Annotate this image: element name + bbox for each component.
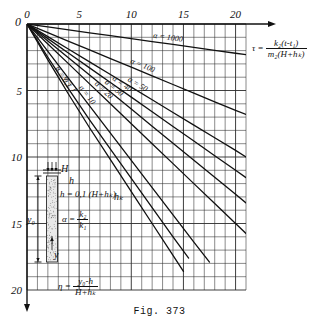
- soil-stipple: [52, 184, 53, 185]
- soil-stipple: [53, 207, 54, 208]
- soil-stipple: [48, 207, 49, 208]
- soil-stipple: [52, 250, 53, 251]
- soil-stipple: [50, 205, 51, 206]
- soil-stipple: [51, 190, 52, 191]
- soil-stipple: [49, 186, 50, 187]
- soil-stipple: [48, 193, 49, 194]
- label-h: h: [69, 175, 74, 186]
- soil-stipple: [51, 255, 52, 256]
- eta-symbol: η: [58, 281, 62, 291]
- soil-stipple: [53, 186, 54, 187]
- soil-stipple: [55, 218, 56, 219]
- soil-stipple: [49, 235, 50, 236]
- soil-stipple: [55, 244, 56, 245]
- soil-stipple: [56, 208, 57, 209]
- alpha-symbol: α: [62, 214, 67, 224]
- soil-stipple: [49, 191, 50, 192]
- soil-stipple: [49, 189, 50, 190]
- x-tick-label: 20: [230, 8, 242, 20]
- soil-stipple: [51, 197, 52, 198]
- soil-stipple: [48, 245, 49, 246]
- soil-stipple: [47, 210, 48, 211]
- soil-stipple: [49, 213, 50, 214]
- label-H: H: [60, 163, 69, 174]
- soil-stipple: [54, 215, 55, 216]
- soil-stipple: [47, 235, 48, 236]
- soil-stipple: [55, 216, 56, 217]
- soil-stipple: [50, 188, 51, 189]
- soil-stipple: [52, 215, 53, 216]
- soil-stipple: [49, 208, 50, 209]
- x-tick-label: 5: [76, 8, 82, 20]
- soil-stipple: [50, 210, 51, 211]
- soil-stipple: [48, 237, 49, 238]
- soil-stipple: [49, 238, 50, 239]
- soil-stipple: [54, 205, 55, 206]
- soil-stipple: [52, 229, 53, 230]
- soil-stipple: [49, 244, 50, 245]
- soil-stipple: [53, 211, 54, 212]
- soil-stipple: [52, 228, 53, 229]
- soil-stipple: [54, 180, 55, 181]
- tau-numerator: k₂(t-t₁): [266, 38, 307, 49]
- soil-stipple: [55, 184, 56, 185]
- soil-stipple: [51, 243, 52, 244]
- soil-stipple: [55, 236, 56, 237]
- soil-stipple: [56, 201, 57, 202]
- soil-stipple: [48, 190, 49, 191]
- dimension-arrow: [36, 177, 39, 180]
- soil-stipple: [50, 252, 51, 253]
- soil-stipple: [54, 208, 55, 209]
- soil-stipple: [51, 217, 52, 218]
- soil-stipple: [55, 182, 56, 183]
- soil-stipple: [53, 192, 54, 193]
- equals-sign-alpha: =: [69, 214, 75, 224]
- soil-stipple: [56, 247, 57, 248]
- soil-stipple: [55, 195, 56, 196]
- soil-stipple: [50, 226, 51, 227]
- soil-stipple: [48, 196, 49, 197]
- soil-stipple: [52, 200, 53, 201]
- eta-denominator: H+hₖ: [73, 287, 98, 297]
- soil-stipple: [48, 241, 49, 242]
- soil-stipple: [55, 186, 56, 187]
- soil-stipple: [48, 247, 49, 248]
- soil-stipple: [50, 253, 51, 254]
- soil-stipple: [50, 194, 51, 195]
- y-tick-label: 10: [11, 151, 23, 163]
- soil-stipple: [49, 218, 50, 219]
- soil-stipple: [55, 183, 56, 184]
- soil-stipple: [51, 179, 52, 180]
- soil-stipple: [49, 182, 50, 183]
- soil-stipple: [53, 212, 54, 213]
- equals-sign: =: [257, 43, 263, 53]
- alpha-relation: α = k₂ k₁: [62, 209, 88, 230]
- soil-stipple: [48, 224, 49, 225]
- tau-symbol: τ: [252, 43, 255, 53]
- y-tick-label: 15: [11, 218, 23, 230]
- soil-stipple: [55, 221, 56, 222]
- tau-formula: τ = k₂(t-t₁) m₂(H+hₖ): [252, 38, 307, 59]
- soil-stipple: [53, 196, 54, 197]
- soil-stipple: [51, 188, 52, 189]
- h-relation: h = 0,1 (H+hₖ): [60, 189, 116, 199]
- eta-numerator: y₀-h: [73, 276, 98, 287]
- soil-stipple: [47, 242, 48, 243]
- soil-stipple: [53, 245, 54, 246]
- x-tick-label: 10: [126, 8, 138, 20]
- soil-stipple: [49, 235, 50, 236]
- soil-stipple: [54, 226, 55, 227]
- soil-stipple: [56, 238, 57, 239]
- soil-stipple: [47, 214, 48, 215]
- soil-stipple: [47, 222, 48, 223]
- alpha-denominator: k₁: [77, 220, 88, 230]
- soil-stipple: [54, 224, 55, 225]
- soil-stipple: [50, 192, 51, 193]
- eta-formula: η = y₀-h H+hₖ: [58, 276, 98, 297]
- y-tick-label: 20: [11, 284, 23, 296]
- soil-stipple: [50, 213, 51, 214]
- soil-stipple: [50, 237, 51, 238]
- soil-stipple: [48, 241, 49, 242]
- soil-stipple: [53, 180, 54, 181]
- soil-stipple: [54, 202, 55, 203]
